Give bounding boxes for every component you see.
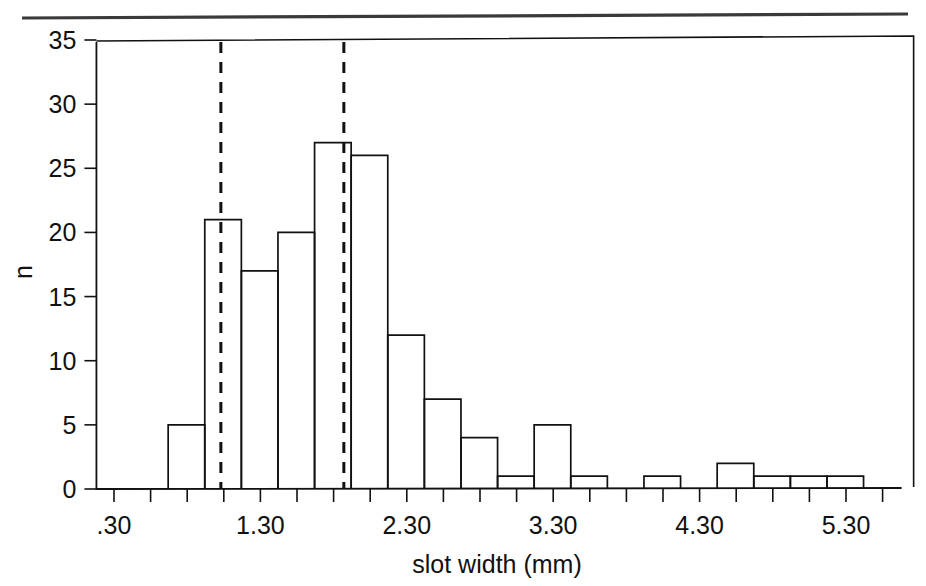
y-tick-label: 10 [49, 347, 77, 375]
histogram-bar [461, 438, 498, 489]
y-axis-ticks [84, 40, 96, 489]
histogram-bar [498, 476, 535, 489]
histogram-bar [315, 143, 352, 489]
x-tick-label: 4.30 [675, 511, 724, 539]
y-tick-label: 30 [49, 90, 77, 118]
y-tick-label: 25 [49, 154, 77, 182]
histogram-bar [241, 271, 278, 489]
histogram-bar [168, 425, 205, 489]
histogram-bar [754, 476, 791, 489]
y-tick-label: 5 [63, 411, 77, 439]
histogram-bar [424, 399, 461, 489]
y-tick-label: 0 [63, 475, 77, 503]
y-axis-tick-labels: 05101520253035 [49, 26, 77, 503]
x-tick-label: 2.30 [382, 511, 431, 539]
histogram-bar [205, 220, 242, 489]
histogram-bar [571, 476, 608, 489]
histogram-bar [644, 476, 681, 489]
x-axis-tick-labels: .301.302.303.304.305.30 [97, 511, 871, 539]
chart-canvas: 05101520253035 .301.302.303.304.305.30 n… [0, 0, 926, 586]
histogram-figure: 05101520253035 .301.302.303.304.305.30 n… [0, 0, 926, 586]
plot-frame [96, 36, 913, 489]
page-header-rule [22, 14, 908, 18]
y-axis-title: n [9, 265, 37, 279]
histogram-bar [278, 232, 315, 489]
y-tick-label: 15 [49, 283, 77, 311]
x-tick-label: 3.30 [529, 511, 578, 539]
axis-spines [96, 42, 901, 489]
histogram-bar [827, 476, 864, 489]
histogram-bar [534, 425, 571, 489]
histogram-bar [790, 476, 827, 489]
y-tick-label: 35 [49, 26, 77, 54]
x-axis-title: slot width (mm) [412, 550, 581, 578]
plot-border [96, 36, 913, 487]
reference-lines [221, 42, 344, 489]
y-tick-label: 20 [49, 218, 77, 246]
x-tick-label: 5.30 [822, 511, 871, 539]
histogram-bar [717, 463, 754, 489]
x-tick-label: 1.30 [236, 511, 285, 539]
x-axis-ticks [114, 489, 883, 502]
histogram-bar [351, 155, 388, 489]
histogram-bars [168, 143, 863, 489]
histogram-bar [388, 335, 425, 489]
x-tick-label: .30 [97, 511, 132, 539]
